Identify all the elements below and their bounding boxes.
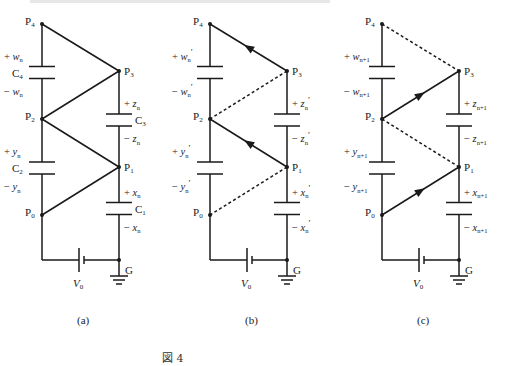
node-dot-p0 xyxy=(380,213,384,217)
node-label-p0: P0 xyxy=(193,206,203,220)
charge-label-minus: − xn+1 xyxy=(464,222,487,235)
node-dot-p2 xyxy=(380,117,384,121)
node-label-p1: P1 xyxy=(464,161,474,175)
node-dot-p4 xyxy=(40,22,44,26)
panel-b: + wn′− wn′+ yn′− yn′+ zn′− zn′+ xn′− xn′… xyxy=(172,15,310,327)
arrow-icon xyxy=(414,188,425,197)
node-label-p1: P1 xyxy=(292,161,302,175)
arrow-icon xyxy=(244,140,255,149)
node-dot-p1 xyxy=(117,165,121,169)
node-dot-p3 xyxy=(457,69,461,73)
node-label-p4: P4 xyxy=(193,15,203,29)
node-dot-p4 xyxy=(208,22,212,26)
charge-label-plus: + xn xyxy=(124,187,141,200)
panel-c: + wn+1− wn+1+ yn+1− yn+1+ zn+1− zn+1+ xn… xyxy=(344,15,487,327)
node-label-p0: P0 xyxy=(365,206,375,220)
node-label-p1: P1 xyxy=(124,161,134,175)
node-label-p3: P3 xyxy=(124,65,134,79)
node-dot-p2 xyxy=(208,117,212,121)
node-dot-p0 xyxy=(208,213,212,217)
arrow-icon xyxy=(244,45,255,54)
node-label-p4: P4 xyxy=(25,15,35,29)
charge-label-plus: + zn+1 xyxy=(464,98,487,111)
node-dot-p4 xyxy=(380,22,384,26)
charge-label-plus: + wn+1 xyxy=(344,51,370,64)
node-dot-p3 xyxy=(285,69,289,73)
node-dot-p3 xyxy=(117,69,121,73)
node-label-g: G xyxy=(293,264,301,276)
node-dot-g xyxy=(457,258,461,262)
capacitor-label-c4: C4 xyxy=(12,67,23,81)
charge-label-plus: + xn′ xyxy=(292,183,310,199)
node-label-p3: P3 xyxy=(292,65,302,79)
node-dot-p2 xyxy=(40,117,44,121)
switch-link-p4-p3 xyxy=(42,24,119,71)
charge-label-minus: − xn xyxy=(124,222,141,235)
node-label-p3: P3 xyxy=(464,65,474,79)
charge-label-minus: − zn xyxy=(124,133,141,146)
node-dot-p0 xyxy=(40,213,44,217)
capacitor-label-c3: C3 xyxy=(135,114,146,128)
node-dot-p1 xyxy=(457,165,461,169)
capacitor-label-c1: C1 xyxy=(135,203,146,217)
node-dot-p1 xyxy=(285,165,289,169)
charge-label-plus: + xn+1 xyxy=(464,187,487,200)
switch-link-p4-p3 xyxy=(382,24,459,71)
battery-label: V0 xyxy=(413,277,424,291)
charge-label-minus: − zn′ xyxy=(292,130,310,146)
figure-caption: 図 4 xyxy=(162,349,184,365)
node-label-g: G xyxy=(125,264,133,276)
node-label-p0: P0 xyxy=(25,206,35,220)
charge-label-plus: + yn xyxy=(4,146,21,159)
charge-label-minus: − wn+1 xyxy=(344,86,370,99)
node-label-p4: P4 xyxy=(365,15,375,29)
charge-label-plus: + zn′ xyxy=(292,95,310,111)
battery-label: V0 xyxy=(73,277,84,291)
charge-label-plus: + wn′ xyxy=(172,47,193,63)
panel-caption: (a) xyxy=(77,314,90,327)
battery-label: V0 xyxy=(241,277,252,291)
node-label-p2: P2 xyxy=(193,110,203,124)
charge-label-minus: − yn+1 xyxy=(344,181,367,194)
circuit-figure: + wn− wnC4+ yn− ynC2+ zn− znC3+ xn− xnC1… xyxy=(0,0,508,366)
charge-label-plus: + yn+1 xyxy=(344,146,367,159)
charge-label-plus: + yn′ xyxy=(172,143,190,159)
charge-label-minus: − yn′ xyxy=(172,178,190,194)
charge-label-plus: + wn xyxy=(4,51,24,64)
arrow-icon xyxy=(414,92,425,101)
capacitor-label-c2: C2 xyxy=(12,162,23,176)
panel-caption: (b) xyxy=(245,314,258,327)
charge-label-minus: − yn xyxy=(4,181,21,194)
node-label-p2: P2 xyxy=(365,110,375,124)
charge-label-minus: − wn xyxy=(4,86,24,99)
node-label-g: G xyxy=(465,264,473,276)
panel-a: + wn− wnC4+ yn− ynC2+ zn− znC3+ xn− xnC1… xyxy=(4,15,146,327)
node-label-p2: P2 xyxy=(25,110,35,124)
charge-label-minus: − wn′ xyxy=(172,82,193,98)
charge-label-minus: − xn′ xyxy=(292,218,310,234)
node-dot-g xyxy=(117,258,121,262)
charge-label-minus: − zn+1 xyxy=(464,133,487,146)
panel-caption: (c) xyxy=(417,314,430,327)
node-dot-g xyxy=(285,258,289,262)
charge-label-plus: + zn xyxy=(124,98,141,111)
